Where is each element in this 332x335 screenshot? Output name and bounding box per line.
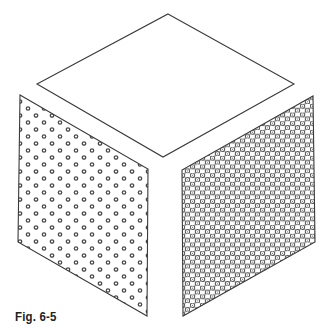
cube-diagram	[0, 0, 332, 335]
figure-caption: Fig. 6-5	[15, 309, 56, 324]
